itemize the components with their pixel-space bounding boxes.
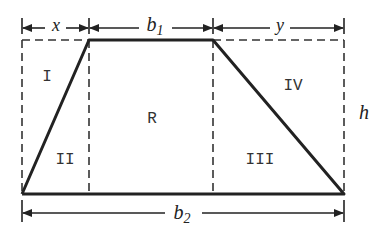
label-y: y [274, 15, 284, 35]
region-label-R: R [147, 110, 157, 128]
region-label-II: II [55, 151, 74, 169]
label-b2: b2 [174, 201, 191, 226]
trapezoid-diagram: x b1 y b2 h I II R III IV [0, 0, 388, 236]
label-h: h [359, 101, 369, 123]
label-b1: b1 [147, 13, 164, 38]
dashed-bounding-box [22, 40, 344, 194]
region-label-I: I [42, 68, 52, 86]
label-x: x [51, 15, 60, 35]
dimension-ticks [22, 18, 344, 222]
region-label-III: III [246, 151, 275, 169]
region-label-IV: IV [283, 77, 303, 95]
trapezoid-outline [22, 40, 344, 194]
